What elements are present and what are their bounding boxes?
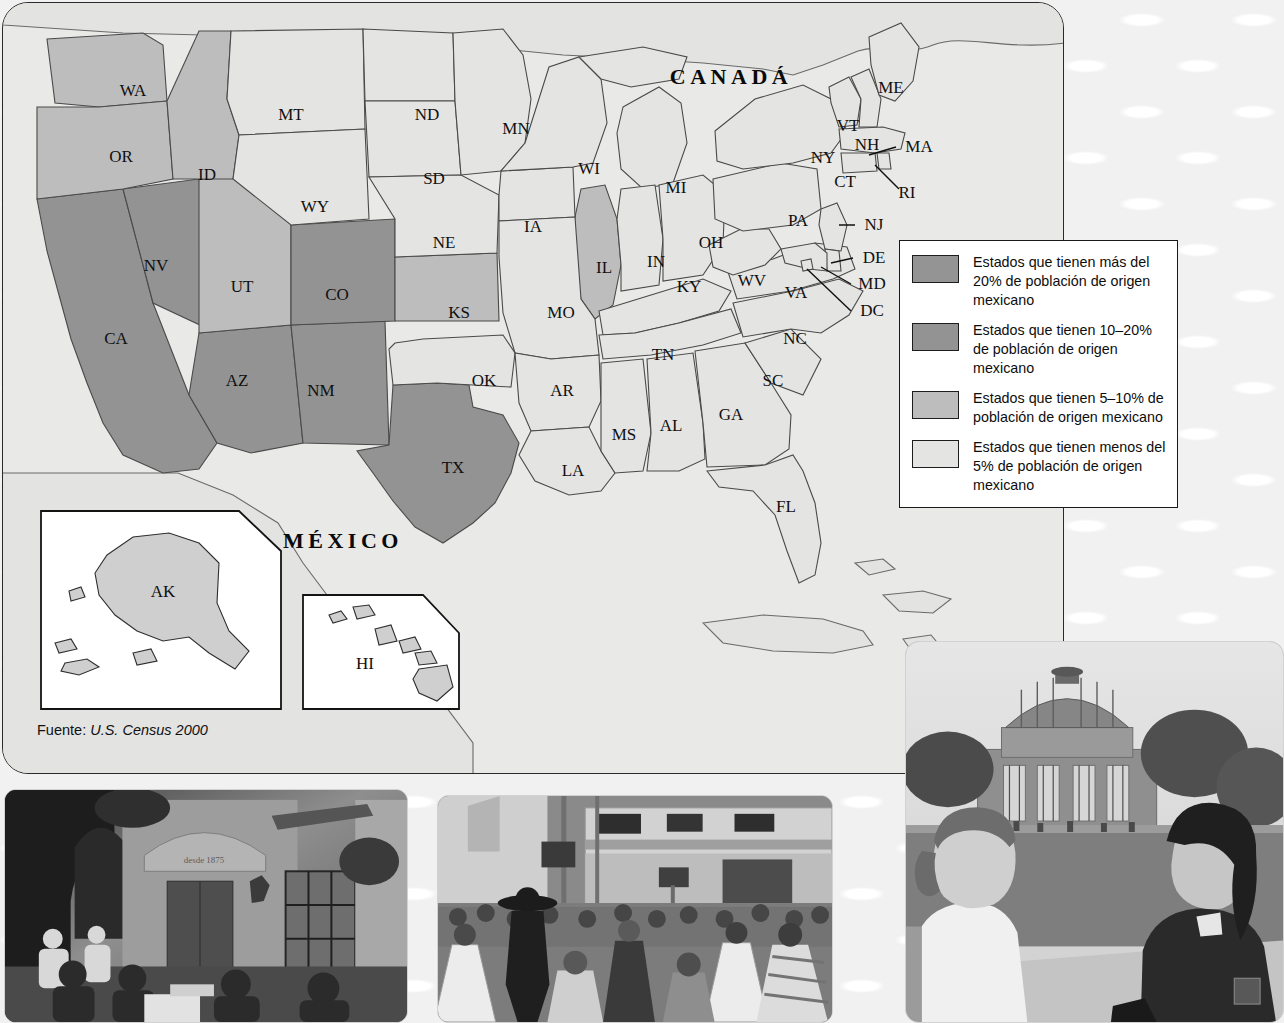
state-label-LA: LA	[562, 461, 585, 480]
state-label-DE: DE	[863, 248, 886, 267]
legend-swatch-10-20	[912, 323, 959, 351]
state-label-RI: RI	[899, 183, 916, 202]
state-label-NY: NY	[811, 148, 836, 167]
inset-hawaii: HI	[303, 595, 459, 709]
legend-swatch-5-10	[912, 391, 959, 419]
state-label-CO: CO	[325, 285, 349, 304]
photo-campus-students	[905, 641, 1284, 1023]
label-country-mexico: MÉXICO	[283, 528, 403, 553]
state-label-CT: CT	[834, 172, 856, 191]
state-label-TN: TN	[652, 345, 675, 364]
state-label-AL: AL	[660, 416, 683, 435]
state-label-SC: SC	[763, 371, 784, 390]
state-label-MN: MN	[502, 119, 529, 138]
legend-item-under-5: Estados que tienen menos del 5% de pobla…	[912, 438, 1167, 495]
state-label-NM: NM	[307, 381, 334, 400]
state-label-MT: MT	[278, 105, 304, 124]
state-label-WI: WI	[578, 159, 600, 178]
state-label-IA: IA	[524, 217, 543, 236]
state-label-KY: KY	[677, 277, 702, 296]
state-label-FL: FL	[776, 497, 796, 516]
state-label-IN: IN	[647, 252, 665, 271]
state-label-OK: OK	[472, 371, 497, 390]
inset-label-HI: HI	[356, 654, 374, 673]
state-label-MO: MO	[547, 303, 574, 322]
state-label-ID: ID	[198, 165, 216, 184]
state-label-NJ: NJ	[865, 215, 884, 234]
source-label: Fuente:	[37, 722, 86, 738]
legend-swatch-under-5	[912, 440, 959, 468]
state-label-GA: GA	[719, 405, 744, 424]
photo-street-festival	[437, 795, 833, 1023]
source-value: U.S. Census 2000	[90, 722, 208, 738]
state-label-AR: AR	[550, 381, 574, 400]
source-note: Fuente: U.S. Census 2000	[37, 722, 208, 738]
label-country-canada: CANADÁ	[670, 64, 792, 89]
state-label-DC: DC	[860, 301, 884, 320]
state-label-NV: NV	[144, 256, 169, 275]
state-label-OR: OR	[109, 147, 133, 166]
state-label-PA: PA	[788, 211, 809, 230]
state-label-WV: WV	[738, 271, 767, 290]
state-label-MA: MA	[905, 137, 933, 156]
state-label-WA: WA	[120, 81, 147, 100]
legend-label-5-10: Estados que tienen 5–10% de población de…	[973, 389, 1167, 427]
state-label-VA: VA	[785, 283, 808, 302]
legend-swatch-over-20	[912, 255, 959, 283]
legend-label-over-20: Estados que tienen más del 20% de poblac…	[973, 253, 1167, 310]
legend-item-5-10: Estados que tienen 5–10% de población de…	[912, 389, 1167, 427]
legend-item-10-20: Estados que tienen 10–20% de población d…	[912, 321, 1167, 378]
state-label-NC: NC	[783, 329, 807, 348]
photo-cafe-plaza: desde 1875	[4, 789, 408, 1023]
state-label-CA: CA	[104, 329, 128, 348]
state-label-TX: TX	[442, 458, 465, 477]
state-label-ND: ND	[415, 105, 440, 124]
inset-label-AK: AK	[151, 582, 176, 601]
state-label-MS: MS	[612, 425, 637, 444]
state-label-WY: WY	[301, 197, 329, 216]
legend-label-10-20: Estados que tienen 10–20% de población d…	[973, 321, 1167, 378]
state-label-NE: NE	[433, 233, 456, 252]
map-legend: Estados que tienen más del 20% de poblac…	[899, 240, 1178, 508]
state-label-VT: VT	[837, 116, 860, 135]
state-label-KS: KS	[448, 303, 470, 322]
state-label-ME: ME	[878, 78, 904, 97]
state-label-OH: OH	[699, 233, 724, 252]
state-label-AZ: AZ	[226, 371, 249, 390]
state-label-IL: IL	[596, 258, 612, 277]
state-label-SD: SD	[423, 169, 445, 188]
legend-item-over-20: Estados que tienen más del 20% de poblac…	[912, 253, 1167, 310]
state-label-NH: NH	[855, 135, 880, 154]
svg-text:desde 1875: desde 1875	[184, 855, 225, 865]
state-label-MI: MI	[666, 178, 687, 197]
state-label-UT: UT	[231, 277, 254, 296]
inset-alaska: AK	[41, 511, 281, 709]
state-label-MD: MD	[858, 274, 885, 293]
legend-label-under-5: Estados que tienen menos del 5% de pobla…	[973, 438, 1167, 495]
